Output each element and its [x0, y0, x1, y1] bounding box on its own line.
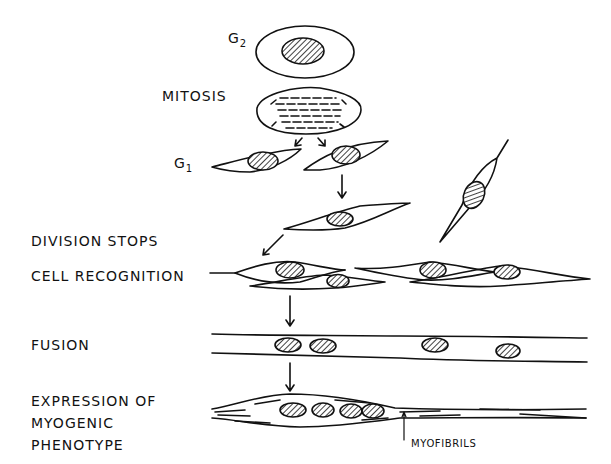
- mitosis-cell: [257, 88, 361, 134]
- label-myofibrils: MYOFIBRILS: [411, 434, 476, 454]
- label-g2: G2: [228, 28, 247, 50]
- label-expression-line2: MYOGENIC: [31, 413, 114, 433]
- label-expression-line1: EXPRESSION OF: [31, 391, 156, 411]
- isolated-cell: [440, 140, 508, 242]
- label-mitosis: MITOSIS: [162, 86, 227, 106]
- arrow-mitosis-to-g1-left: [295, 138, 302, 146]
- myofibrils-pointer: [402, 412, 406, 440]
- arrow-mitosis-to-g1-right: [318, 138, 325, 146]
- arrow-fusion-to-expression: [286, 363, 294, 391]
- label-fusion: FUSION: [31, 335, 90, 355]
- recognition-cells-left: [210, 262, 385, 289]
- g2-cell: [256, 26, 354, 78]
- g1-cell-right: [304, 141, 388, 170]
- mature-myotube: [212, 394, 586, 427]
- g1-cell-left: [212, 149, 301, 172]
- arrow-g1-to-division: [338, 175, 346, 198]
- label-division-stops: DIVISION STOPS: [31, 231, 158, 251]
- division-stops-cell: [284, 203, 410, 230]
- recognition-cells-right: [355, 262, 590, 287]
- arrow-division-to-recognition: [263, 235, 283, 255]
- label-expression-line3: PHENOTYPE: [31, 435, 124, 455]
- label-cell-recognition: CELL RECOGNITION: [31, 266, 185, 286]
- arrow-recognition-to-fusion: [286, 296, 294, 326]
- fusion-myotube: [212, 334, 587, 362]
- label-g1: G1: [174, 153, 193, 175]
